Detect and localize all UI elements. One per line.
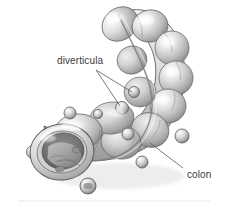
diverticulum bbox=[122, 128, 134, 140]
diverticulum bbox=[64, 107, 76, 119]
leader-line-diverticula-a bbox=[96, 70, 120, 106]
leader-line-colon bbox=[150, 143, 183, 168]
diverticulum bbox=[136, 156, 148, 168]
medical-illustration-figure: diverticula colon bbox=[0, 0, 228, 210]
diverticulum bbox=[94, 110, 103, 119]
diverticulum bbox=[175, 129, 189, 143]
diverticulum bbox=[129, 87, 140, 98]
label-colon: colon bbox=[187, 170, 211, 180]
label-diverticula: diverticula bbox=[57, 56, 103, 66]
diverticulum-ostium bbox=[84, 183, 93, 189]
colon-body bbox=[26, 0, 193, 194]
